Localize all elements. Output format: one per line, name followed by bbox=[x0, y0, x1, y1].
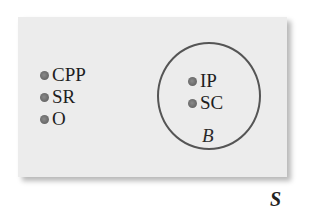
element-o: O bbox=[40, 109, 66, 129]
element-label: IP bbox=[200, 71, 217, 91]
element-label: O bbox=[52, 109, 66, 129]
element-dot-icon bbox=[188, 99, 197, 108]
element-label: SC bbox=[200, 93, 223, 113]
element-label: CPP bbox=[52, 65, 86, 85]
element-dot-icon bbox=[40, 93, 49, 102]
universe-label: S bbox=[270, 188, 281, 206]
element-label: SR bbox=[52, 87, 75, 107]
element-dot-icon bbox=[40, 115, 49, 124]
element-sr: SR bbox=[40, 87, 75, 107]
set-b-label: B bbox=[202, 125, 214, 147]
element-sc: SC bbox=[188, 93, 223, 113]
element-ip: IP bbox=[188, 71, 217, 91]
element-cpp: CPP bbox=[40, 65, 86, 85]
element-dot-icon bbox=[40, 71, 49, 80]
element-dot-icon bbox=[188, 77, 197, 86]
